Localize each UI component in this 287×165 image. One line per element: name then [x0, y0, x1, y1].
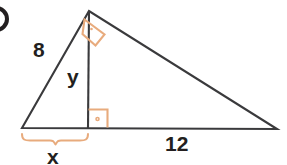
geometry-canvas — [0, 0, 287, 165]
right-angle-marker-apex-icon — [83, 20, 105, 46]
triangle-path — [22, 11, 277, 129]
label-altitude-y: y — [67, 66, 79, 87]
right-angle-marker-foot-icon — [89, 110, 108, 128]
label-leg-8: 8 — [33, 39, 45, 60]
triangle-outline — [22, 11, 277, 129]
x-measure-brace-icon — [22, 134, 88, 145]
label-brace-x: x — [47, 146, 59, 165]
label-base-12: 12 — [165, 133, 188, 154]
geometry-diagram: 8 y 12 x — [0, 0, 287, 165]
problem-number-bullet-icon — [0, 8, 7, 30]
